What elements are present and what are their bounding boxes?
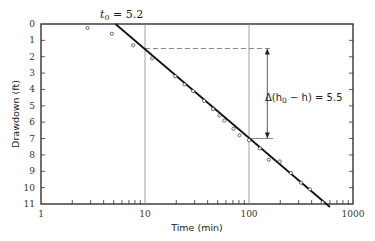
- y-tick-label: 10: [24, 183, 36, 193]
- data-point-marker: [150, 57, 153, 60]
- arrow-up-icon: [265, 49, 270, 55]
- x-tick-label: 1: [38, 209, 44, 219]
- data-point-marker: [86, 26, 89, 29]
- x-axis-ticks: 1101001000: [38, 200, 365, 219]
- y-tick-label: 11: [24, 199, 35, 209]
- data-point-marker: [267, 158, 270, 161]
- y-tick-label: 6: [29, 117, 35, 127]
- data-point-marker: [110, 32, 113, 35]
- data-point-marker: [174, 75, 177, 78]
- delta-annotation: Δ(h0 − h) = 5.5: [265, 92, 343, 105]
- y-tick-label: 8: [29, 150, 35, 160]
- data-point-marker: [223, 119, 226, 122]
- fitted-line: [115, 24, 329, 207]
- plot-frame: [41, 24, 353, 204]
- x-tick-label: 100: [240, 209, 257, 219]
- y-tick-label: 5: [29, 101, 35, 111]
- data-point-marker: [278, 160, 281, 163]
- reference-lines: [145, 24, 273, 204]
- data-point-marker: [232, 127, 235, 130]
- drawdown-chart: 1101001000 01234567891011 t0 = 5.2 Δ(h0 …: [0, 0, 375, 241]
- data-point-marker: [191, 89, 194, 92]
- data-point-marker: [247, 139, 250, 142]
- x-axis-title: Time (min): [170, 222, 223, 233]
- data-point-marker: [202, 99, 205, 102]
- fitted-straight-line: [115, 24, 329, 207]
- data-point-marker: [299, 181, 302, 184]
- data-point-marker: [183, 83, 186, 86]
- y-tick-label: 3: [29, 68, 35, 78]
- y-tick-label: 7: [29, 134, 35, 144]
- data-point-marker: [289, 171, 292, 174]
- plot-border: [41, 24, 353, 204]
- x-tick-label: 1000: [342, 209, 365, 219]
- t0-annotation: t0 = 5.2: [100, 8, 143, 22]
- data-point-marker: [211, 107, 214, 110]
- data-point-marker: [132, 44, 135, 47]
- data-point-marker: [258, 147, 261, 150]
- data-point-marker: [238, 134, 241, 137]
- data-point-marker: [308, 188, 311, 191]
- y-axis-ticks: 01234567891011: [24, 19, 353, 209]
- y-tick-label: 0: [29, 19, 35, 29]
- y-tick-label: 4: [29, 84, 35, 94]
- data-points: [86, 26, 324, 203]
- y-tick-label: 2: [29, 52, 35, 62]
- x-tick-label: 10: [139, 209, 151, 219]
- y-axis-title: Drawdown (ft): [10, 80, 21, 148]
- y-tick-label: 9: [29, 166, 35, 176]
- data-point-marker: [218, 114, 221, 117]
- data-point-marker: [321, 201, 324, 204]
- arrow-down-icon: [265, 133, 270, 139]
- y-tick-label: 1: [29, 35, 35, 45]
